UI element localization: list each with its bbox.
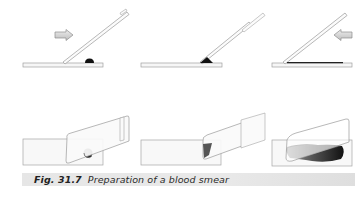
arrow-left-icon bbox=[334, 30, 352, 41]
figure-number: Fig. 31.7 bbox=[34, 174, 82, 185]
base-slide bbox=[272, 63, 352, 67]
figure-caption-text: Preparation of a blood smear bbox=[88, 174, 229, 185]
blood-drop bbox=[85, 59, 94, 64]
blood-smear-figure: Fig. 31.7 Preparation of a blood smear bbox=[0, 0, 362, 199]
top-view-step-1 bbox=[23, 116, 129, 165]
base-slide bbox=[23, 63, 103, 67]
side-view-step-2 bbox=[120, 9, 251, 67]
top-view-step-2 bbox=[120, 117, 250, 165]
spreader-slide bbox=[63, 12, 129, 64]
base-slide bbox=[141, 63, 222, 67]
top-view-step-3 bbox=[241, 113, 352, 166]
spreader-slide bbox=[283, 13, 347, 64]
blood-smear-diagram bbox=[0, 0, 362, 199]
side-view-step-1 bbox=[23, 12, 129, 67]
figure-caption: Fig. 31.7 Preparation of a blood smear bbox=[22, 173, 355, 186]
arrow-right-icon bbox=[55, 30, 73, 41]
side-view-step-3 bbox=[242, 13, 352, 67]
